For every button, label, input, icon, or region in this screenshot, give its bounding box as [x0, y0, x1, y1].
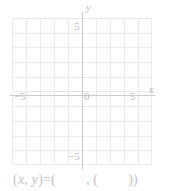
x-axis-label: x: [149, 84, 154, 95]
y-tick-label-minus5: −5: [68, 151, 80, 162]
answer-expression: (x, y)=(, ()): [13, 170, 181, 190]
answer-comma-2: , (: [86, 172, 98, 187]
y-axis-line: [82, 12, 83, 170]
coordinate-plane-figure: y x 5 −5 −5 0 5 (x, y)=(, ()): [0, 0, 183, 191]
y-tick-label-5: 5: [74, 21, 80, 32]
x-tick-label-minus5: −5: [14, 91, 26, 102]
answer-comma-1: ,: [24, 172, 31, 187]
x-tick-label-5: 5: [130, 91, 136, 102]
y-axis-label: y: [86, 2, 91, 13]
origin-label: 0: [84, 91, 90, 102]
answer-close-equals: )=(: [38, 172, 56, 187]
answer-close-parens: )): [128, 172, 138, 187]
